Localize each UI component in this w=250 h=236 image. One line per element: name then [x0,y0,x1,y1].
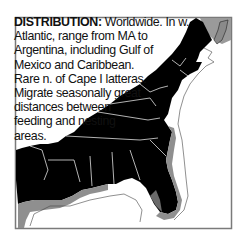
distribution-line: Migrate seasonally great [14,86,194,100]
distribution-line: Rare n. of Cape I latteras. [14,72,194,86]
distribution-line: areas. [14,129,194,143]
distribution-line: Mexico and Caribbean. [14,58,194,72]
distribution-text: DISTRIBUTION: Worldwide. In w. Atlantic,… [14,15,194,143]
distribution-line: distances between [14,100,194,114]
distribution-line: Argentina, including Gulf of [14,43,194,57]
distribution-line: Atlantic, range from MA to [14,29,194,43]
distribution-line: Worldwide. In w. [102,15,189,29]
distribution-label: DISTRIBUTION: [14,15,102,29]
distribution-line: feeding and nesting [14,114,194,128]
